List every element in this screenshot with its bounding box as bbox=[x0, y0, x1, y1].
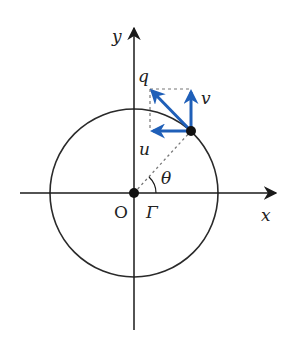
y-axis-label: y bbox=[111, 26, 122, 46]
x-axis-label: x bbox=[261, 205, 271, 225]
origin-label: O bbox=[114, 202, 128, 222]
point-on-circle bbox=[186, 126, 196, 136]
origin-point bbox=[129, 188, 139, 198]
vector-q bbox=[152, 91, 191, 131]
vector-u-label: u bbox=[139, 139, 150, 159]
vector-q-label: q bbox=[138, 66, 149, 86]
diagram-canvas: y x O Γ θ q v u bbox=[0, 0, 301, 349]
angle-label: θ bbox=[161, 168, 171, 188]
curve-label: Γ bbox=[145, 202, 159, 222]
angle-arc bbox=[149, 177, 156, 193]
vector-v-label: v bbox=[201, 88, 211, 108]
